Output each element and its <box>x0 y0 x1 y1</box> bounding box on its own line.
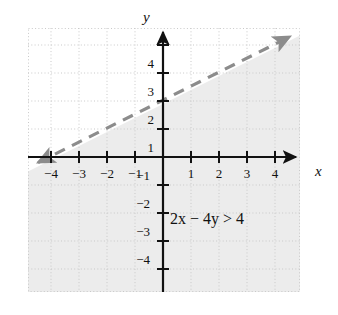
coordinate-plane-svg <box>28 28 300 292</box>
y-tick-label-neg3: −3 <box>126 224 150 240</box>
y-axis-label: y <box>143 9 150 26</box>
y-tick-label-4: 4 <box>130 56 154 72</box>
x-tick-label-1: 1 <box>180 166 202 182</box>
inequality-label: 2x − 4y > 4 <box>170 210 244 228</box>
x-tick-label-neg3: −3 <box>68 166 90 182</box>
x-axis-label: x <box>315 163 322 180</box>
x-tick-label-2: 2 <box>208 166 230 182</box>
y-tick-label-neg2: −2 <box>126 196 150 212</box>
y-tick-label-3: 3 <box>130 84 154 100</box>
y-tick-label-1: 1 <box>130 140 154 156</box>
x-tick-label-neg4: −4 <box>40 166 62 182</box>
y-tick-label-neg4: −4 <box>126 252 150 268</box>
plot-area <box>28 28 300 292</box>
y-tick-label-neg1: −1 <box>126 168 150 184</box>
x-tick-label-3: 3 <box>236 166 258 182</box>
inequality-graph-figure: x y −4 −3 −2 −1 1 2 3 4 4 3 2 1 −1 −2 −3… <box>0 0 338 315</box>
x-tick-label-4: 4 <box>264 166 286 182</box>
x-tick-label-neg2: −2 <box>96 166 118 182</box>
y-tick-label-2: 2 <box>130 112 154 128</box>
